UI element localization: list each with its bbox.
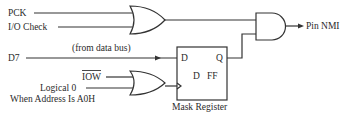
data-bus-note: (from data bus): [72, 43, 131, 54]
nmi-arrow-icon: [298, 24, 304, 29]
logical0-label-line2: When Address Is A0H: [10, 94, 95, 104]
io-check-label: I/O Check: [8, 22, 48, 32]
nmi-logic-diagram: PCK I/O Check Pin NMI D7 (from data bus)…: [0, 0, 364, 118]
ff-type-d: D: [193, 71, 200, 81]
ff-type-ff: FF: [207, 71, 218, 81]
mask-register-label: Mask Register: [172, 102, 228, 112]
ff-q-pin: Q: [216, 53, 223, 63]
pin-nmi-label: Pin NMI: [306, 21, 340, 31]
ff-d-pin: D: [181, 53, 188, 63]
d7-arrow-icon: [155, 56, 161, 61]
logical0-label-line1: Logical 0: [40, 83, 76, 93]
d7-label: D7: [8, 53, 20, 63]
and-gate: [256, 13, 286, 40]
or-gate-2: [130, 71, 165, 95]
or-gate-1: [130, 6, 165, 34]
iow-label: IOW: [82, 72, 101, 82]
pck-label: PCK: [8, 8, 27, 18]
q-to-and-wire: [227, 34, 256, 58]
